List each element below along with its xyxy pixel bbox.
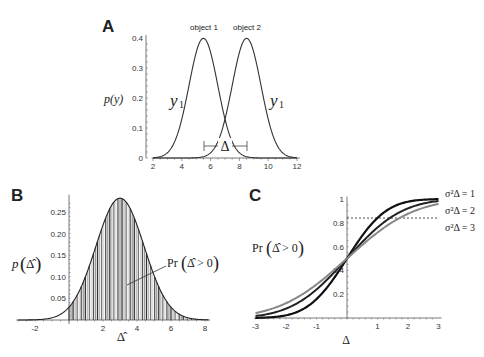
svg-text:y: y xyxy=(168,91,178,110)
panel-a-letter: A xyxy=(102,17,114,36)
svg-text:1: 1 xyxy=(375,322,380,331)
svg-text:y: y xyxy=(268,91,278,110)
svg-text:Δ̂ > 0: Δ̂ > 0 xyxy=(272,241,298,255)
svg-text:8: 8 xyxy=(237,162,242,171)
svg-text:4: 4 xyxy=(135,324,140,333)
curve-label-y1-right: y 1 xyxy=(268,91,284,110)
svg-text:0.1: 0.1 xyxy=(132,124,144,133)
panel-b-xlabel: Δ̂ xyxy=(117,329,128,344)
svg-text:1: 1 xyxy=(340,195,345,204)
svg-text:2: 2 xyxy=(151,162,156,171)
svg-text:10: 10 xyxy=(264,162,273,171)
svg-text:p: p xyxy=(11,256,19,271)
delta-symbol: Δ xyxy=(220,139,229,154)
svg-text:0.25: 0.25 xyxy=(50,208,66,217)
legend-sigma-1: σ²Δ = 1 xyxy=(445,188,475,199)
svg-text:-2: -2 xyxy=(31,324,39,333)
svg-text:-3: -3 xyxy=(252,322,260,331)
svg-text:0.20: 0.20 xyxy=(50,230,66,239)
panel-b-letter: B xyxy=(11,186,23,205)
panel-c: C -3-2-11230.20.40.60.81 Pr ( Δ̂ > 0 ) Δ… xyxy=(249,186,475,347)
svg-text:3: 3 xyxy=(436,322,441,331)
svg-text:0: 0 xyxy=(139,154,144,163)
svg-text:0.6: 0.6 xyxy=(333,243,345,252)
figure-canvas: A 2468101200.10.20.30.4 object 1 object … xyxy=(0,0,484,357)
svg-text:): ) xyxy=(35,253,41,275)
panel-a-ylabel: p(y) xyxy=(103,92,123,106)
svg-text:0.05: 0.05 xyxy=(50,294,66,303)
svg-text:2: 2 xyxy=(406,322,411,331)
svg-text:-1: -1 xyxy=(313,322,321,331)
delta-interval: Δ xyxy=(204,138,247,154)
svg-text:6: 6 xyxy=(208,162,213,171)
legend-sigma-2: σ²Δ = 2 xyxy=(445,205,475,216)
svg-text:0.8: 0.8 xyxy=(333,219,345,228)
svg-text:Pr: Pr xyxy=(252,241,263,255)
object-2-label: object 2 xyxy=(233,23,262,32)
panel-b-ylabel: p ( Δ̂ ) xyxy=(11,253,41,275)
svg-text:4: 4 xyxy=(180,162,185,171)
panel-c-xlabel: Δ xyxy=(342,333,350,347)
panel-b: B -224680.050.100.150.200.25 p ( Δ̂ ) Pr… xyxy=(11,186,219,344)
svg-text:): ) xyxy=(298,238,304,259)
svg-text:0.2: 0.2 xyxy=(132,94,144,103)
svg-text:0.10: 0.10 xyxy=(50,273,66,282)
svg-text:12: 12 xyxy=(293,162,302,171)
svg-text:-2: -2 xyxy=(282,322,290,331)
svg-text:1: 1 xyxy=(179,99,184,110)
svg-text:0.4: 0.4 xyxy=(132,34,144,43)
svg-text:1: 1 xyxy=(279,99,284,110)
svg-text:0.2: 0.2 xyxy=(333,290,345,299)
legend-sigma-3: σ²Δ = 3 xyxy=(445,222,475,233)
svg-text:8: 8 xyxy=(203,324,208,333)
panel-c-ylabel: Pr ( Δ̂ > 0 ) xyxy=(252,238,304,259)
curve-label-y1-left: y 1 xyxy=(168,91,184,110)
svg-text:Pr: Pr xyxy=(167,256,178,270)
svg-text:): ) xyxy=(213,253,219,274)
svg-text:6: 6 xyxy=(169,324,174,333)
svg-text:Δ̂ > 0: Δ̂ > 0 xyxy=(187,256,213,270)
object-1-label: object 1 xyxy=(190,23,219,32)
panel-c-letter: C xyxy=(249,186,261,205)
svg-text:0.15: 0.15 xyxy=(50,251,66,260)
panel-b-curve xyxy=(18,198,208,320)
panel-a: A 2468101200.10.20.30.4 object 1 object … xyxy=(102,17,302,171)
svg-text:2: 2 xyxy=(101,324,106,333)
svg-text:0.3: 0.3 xyxy=(132,64,144,73)
